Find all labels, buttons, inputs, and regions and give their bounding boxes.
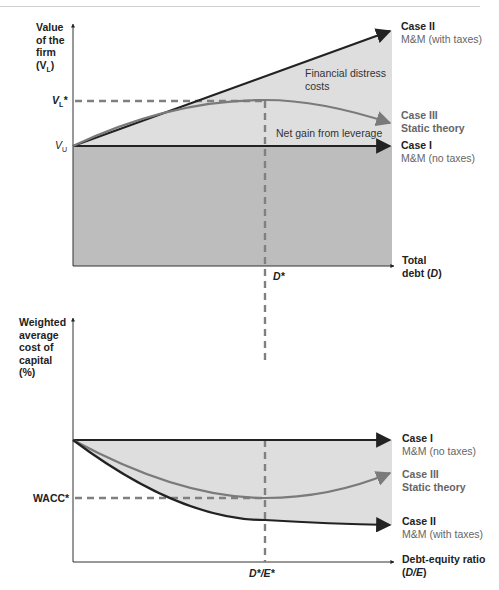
top-y-tick-vu: VU [55, 139, 67, 157]
bottom-legend-case-3: Case IIIStatic theory [402, 468, 466, 493]
annotation-financial-distress: Financial distresscosts [305, 67, 386, 92]
top-y-axis-label: Valueof thefirm (VL) [36, 21, 65, 76]
top-legend-case-3: Case IIIStatic theory [401, 109, 465, 134]
bottom-y-tick-wacc-star: WACC* [33, 492, 69, 505]
bottom-legend-case-1: Case IM&M (no taxes) [402, 432, 476, 457]
top-x-tick-d-star: D* [273, 270, 285, 283]
bottom-y-axis-label: Weightedaveragecost ofcapital(%) [19, 316, 66, 379]
bottom-x-tick-de-star: D*/E* [249, 567, 275, 580]
capital-structure-charts [0, 0, 499, 590]
bottom-fill-region [73, 440, 392, 525]
annotation-net-gain: Net gain from leverage [276, 127, 382, 140]
bottom-legend-case-2: Case IIM&M (with taxes) [402, 515, 483, 540]
top-y-tick-vl-star: VL* [52, 94, 67, 112]
bottom-x-axis-label: Debt-equity ratio (D/E) [402, 553, 485, 578]
top-legend-case-2: Case IIM&M (with taxes) [401, 20, 482, 45]
top-legend-case-1: Case IM&M (no taxes) [401, 139, 475, 164]
top-x-axis-label: Total debt (D) [402, 254, 442, 279]
top-fill-base [73, 146, 392, 266]
